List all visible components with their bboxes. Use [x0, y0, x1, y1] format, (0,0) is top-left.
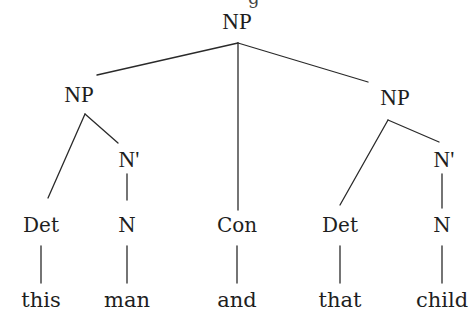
node-np-left: NP: [64, 83, 93, 106]
leaf-and: and: [217, 290, 257, 311]
leaf-this: this: [21, 290, 60, 311]
node-det-right: Det: [322, 215, 358, 235]
edge-np_left-to-det_left: [48, 114, 85, 198]
leaf-man: man: [104, 290, 150, 311]
node-det-left: Det: [23, 215, 59, 235]
edge-root-to-np_left: [97, 43, 238, 75]
edge-np_right-to-det_right: [340, 120, 388, 205]
syntax-tree-edges: [0, 0, 474, 325]
node-con: Con: [217, 215, 257, 235]
edge-np_left-to-nbar_left: [85, 114, 118, 143]
edge-np_right-to-nbar_right: [388, 120, 439, 142]
node-nbar-left: N': [119, 148, 140, 171]
leaf-child: child: [416, 290, 468, 311]
node-n-left: N: [118, 215, 136, 235]
node-np-right: NP: [380, 86, 409, 109]
node-nbar-right: N': [434, 148, 455, 171]
node-n-right: N: [433, 215, 451, 235]
leaf-that: that: [319, 290, 362, 311]
edge-root-to-np_right: [238, 43, 368, 82]
node-root-np: NP: [222, 10, 251, 33]
